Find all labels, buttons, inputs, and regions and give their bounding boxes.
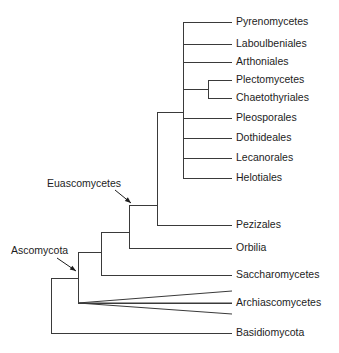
fan-archiascomycetes-upper <box>78 291 232 303</box>
tip-dothideales-label: Dothideales <box>236 131 291 143</box>
clade-annotation-ascomycota-text: Ascomycota <box>11 244 68 256</box>
tip-label-layer: PyrenomycetesLaboulbenialesArthonialesPl… <box>236 15 321 338</box>
tip-arthoniales-label: Arthoniales <box>236 55 289 67</box>
tip-lecanorales-label: Lecanorales <box>236 151 293 163</box>
phylogenetic-tree-figure: PyrenomycetesLaboulbenialesArthonialesPl… <box>0 0 339 353</box>
fan-branch-layer <box>78 291 232 314</box>
tip-pezizales-label: Pezizales <box>236 218 281 230</box>
tip-pyrenomycetes-label: Pyrenomycetes <box>236 15 308 27</box>
tip-basidiomycota-label: Basidiomycota <box>236 326 304 338</box>
tip-helotiales-label: Helotiales <box>236 171 282 183</box>
tip-orbilia-label: Orbilia <box>236 241 267 253</box>
clade-annotation-ascomycota-pointer-head <box>70 266 76 271</box>
tip-chaetothyriales-label: Chaetothyriales <box>236 91 309 103</box>
cladogram-svg: PyrenomycetesLaboulbenialesArthonialesPl… <box>0 0 339 353</box>
fan-archiascomycetes-lower <box>78 303 232 314</box>
tip-pleosporales-label: Pleosporales <box>236 111 297 123</box>
clade-annotation-euascomycetes-text: Euascomycetes <box>47 177 121 189</box>
clade-annotation-layer: EuascomycetesAscomycota <box>11 177 131 271</box>
tip-laboulbeniales-label: Laboulbeniales <box>236 37 307 49</box>
tip-plectomycetes-label: Plectomycetes <box>236 73 304 85</box>
tip-archiascomycetes-label: Archiascomycetes <box>236 296 321 308</box>
tip-saccharomycetes-label: Saccharomycetes <box>236 268 319 280</box>
